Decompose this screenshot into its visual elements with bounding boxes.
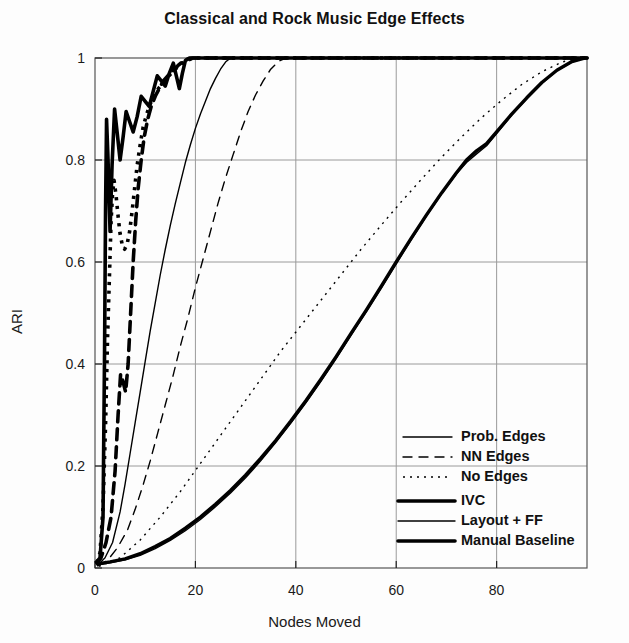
y-tick-label: 1: [30, 50, 85, 66]
legend-label: NN Edges: [461, 448, 530, 464]
y-tick-label: 0.6: [30, 254, 85, 270]
axes-frame: [95, 58, 587, 568]
y-axis-label: ARI: [8, 309, 25, 334]
x-tick-label: 80: [489, 582, 505, 598]
series-line: [98, 58, 587, 566]
grid-lines: [95, 58, 587, 568]
series-line: [97, 58, 587, 563]
legend-label: Manual Baseline: [461, 532, 575, 548]
legend-line-samples: [398, 437, 455, 541]
series-line: [98, 58, 585, 565]
x-axis-label: Nodes Moved: [0, 613, 629, 630]
series-line: [97, 58, 587, 562]
x-tick-label: 40: [288, 582, 304, 598]
x-tick-label: 20: [188, 582, 204, 598]
legend-label: No Edges: [461, 468, 528, 484]
legend-label: IVC: [461, 492, 485, 508]
data-series: [97, 58, 587, 566]
y-tick-label: 0.4: [30, 356, 85, 372]
y-tick-label: 0.2: [30, 458, 85, 474]
series-line: [98, 58, 587, 565]
x-tick-label: 0: [91, 582, 99, 598]
plot-frame: [95, 58, 587, 568]
series-line: [99, 58, 587, 566]
x-tick-label: 60: [388, 582, 404, 598]
y-tick-label: 0.8: [30, 152, 85, 168]
y-tick-label: 0: [30, 560, 85, 576]
series-line: [97, 58, 587, 563]
series-line: [98, 58, 585, 564]
legend-label: Layout + FF: [461, 512, 543, 528]
figure-canvas: Classical and Rock Music Edge Effects 10…: [0, 0, 629, 643]
legend-label: Prob. Edges: [461, 428, 546, 444]
